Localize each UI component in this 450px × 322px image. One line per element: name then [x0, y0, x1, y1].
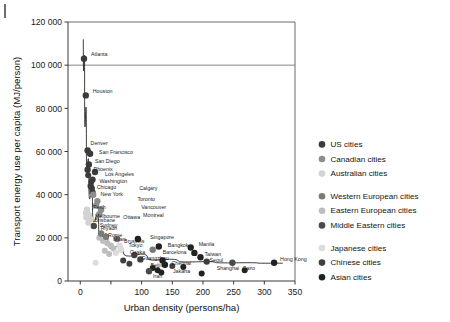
point-label-bangkok: Bangkok: [168, 242, 189, 248]
data-point-houston: [83, 92, 89, 98]
point-label-cairo: Cairo: [242, 265, 255, 271]
legend-item-canadian[interactable]: Canadian cities: [319, 155, 386, 164]
legend-item-australian[interactable]: Australian cities: [319, 169, 387, 178]
legend-label: Australian cities: [331, 169, 388, 178]
legend-item-western-european[interactable]: Western European cities: [319, 192, 419, 201]
scatter-chart: 0100150200250300350 020 00040 00060 0008…: [0, 0, 450, 322]
data-point: [120, 258, 126, 264]
point-label-san-diego: San Diego: [95, 158, 120, 164]
y-tick-label: 120 000: [31, 17, 62, 27]
legend-swatch-icon: [319, 156, 326, 163]
point-label-jakarta: Jakarta: [173, 268, 190, 274]
x-tick-label: 100: [134, 287, 149, 297]
x-tick-label: 350: [288, 287, 303, 297]
legend-swatch-icon: [319, 245, 326, 252]
x-tick-label: 0: [78, 287, 83, 297]
legend-swatch-icon: [319, 170, 326, 177]
point-label-new-york: New York: [101, 191, 124, 197]
legend-item-eastern-european[interactable]: Eastern European cities: [319, 206, 417, 215]
x-tick-label: 250: [226, 287, 241, 297]
point-label-calgary: Calgary: [139, 185, 158, 191]
point-label-chicago: Chicago: [97, 184, 116, 190]
data-point-seoul: [197, 254, 203, 260]
legend-swatch-icon: [319, 259, 326, 266]
point-label-los-angeles: Los Angeles: [105, 171, 134, 177]
point-label-hong-kong: Hong Kong: [280, 256, 307, 262]
y-tick-label: 40 000: [36, 190, 63, 200]
point-label-perth: Perth: [93, 204, 106, 210]
data-point-atlanta: [81, 56, 87, 62]
legend-swatch-icon: [319, 141, 326, 148]
x-tick-label: 150: [165, 287, 180, 297]
y-axis-ticks: 020 00040 00060 00080 000100 000120 000: [31, 17, 68, 286]
point-label-singapore: Singapore: [150, 234, 174, 240]
point-label-atlanta: Atlanta: [91, 51, 108, 57]
point-label-houston: Houston: [93, 88, 113, 94]
data-point-taiwan: [191, 250, 197, 256]
point-label-chennai: Chennai: [172, 260, 192, 266]
data-point-san-diego: [86, 161, 92, 167]
x-axis-ticks: 0100150200250300350: [78, 281, 303, 297]
data-point-manila: [188, 244, 194, 250]
data-point-osaka: [118, 247, 124, 253]
legend-label: Western European cities: [331, 192, 419, 201]
legend-swatch-icon: [319, 274, 326, 281]
x-axis-title: Urban density (persons/ha): [124, 302, 240, 313]
point-label-guangzhou: Guangzhou: [141, 255, 168, 261]
y-tick-label: 100 000: [31, 60, 62, 70]
legend-item-asian[interactable]: Asian cities: [319, 273, 372, 282]
point-label-montreal: Montreal: [143, 212, 164, 218]
point-label-toronto: Toronto: [137, 196, 155, 202]
point-label-manila: Manila: [199, 241, 215, 247]
y-tick-label: 20 000: [36, 233, 63, 243]
data-point: [199, 270, 205, 276]
legend-label: Asian cities: [331, 273, 372, 282]
data-point-riyadh: [91, 223, 97, 229]
data-point-bangkok: [156, 243, 162, 249]
point-label-ottawa: Ottawa: [123, 214, 140, 220]
legend-label: Japanese cities: [331, 244, 387, 253]
point-label-riyadh: Riyadh: [101, 225, 118, 231]
data-point: [93, 260, 99, 266]
point-label-iran: Iran: [153, 273, 162, 279]
legend-label: US cities: [331, 140, 363, 149]
legend-label: Middle Eastern cities: [331, 221, 406, 230]
data-point-barcelona: [150, 247, 156, 253]
point-label-seoul: Seoul: [210, 257, 224, 263]
data-point-washington: [89, 176, 95, 182]
legend-item-chinese[interactable]: Chinese cities: [319, 258, 381, 267]
data-point-calgary: [90, 192, 96, 198]
data-point: [126, 261, 132, 267]
legend-swatch-icon: [319, 208, 326, 215]
data-point-phoenix: [84, 167, 90, 173]
point-label-tokyo: Tokyo: [129, 242, 143, 248]
legend: US citiesCanadian citiesAustralian citie…: [319, 140, 419, 282]
data-point-iran: [146, 268, 152, 274]
data-point-sydney: [88, 216, 94, 222]
point-label-denver: Denver: [91, 140, 108, 146]
y-axis-title: Transport energy use per capita (MJ/pers…: [11, 57, 22, 246]
legend-label: Chinese cities: [331, 258, 381, 267]
legend-swatch-icon: [319, 222, 326, 229]
data-point-chicago: [88, 183, 94, 189]
data-point: [106, 251, 112, 257]
point-label-taiwan: Taiwan: [204, 251, 221, 257]
y-tick-label: 60 000: [36, 147, 63, 157]
legend-item-japanese[interactable]: Japanese cities: [319, 244, 387, 253]
y-tick-label: 80 000: [36, 104, 63, 114]
y-tick-label: 0: [57, 276, 62, 286]
x-tick-label: 200: [196, 287, 211, 297]
legend-swatch-icon: [319, 193, 326, 200]
point-label-san-francisco: San Francisco: [99, 149, 133, 155]
point-label-beijing: Beijing: [150, 262, 166, 268]
legend-label: Canadian cities: [331, 155, 386, 164]
data-point-san-francisco: [87, 151, 93, 157]
legend-item-us[interactable]: US cities: [319, 140, 363, 149]
point-label-vancouver: Vancouver: [141, 204, 166, 210]
x-tick-label: 300: [257, 287, 272, 297]
legend-label: Eastern European cities: [331, 206, 417, 215]
legend-item-middle-eastern[interactable]: Middle Eastern cities: [319, 221, 405, 230]
data-point-hong-kong: [271, 260, 277, 266]
point-label-shanghai: Shanghai: [217, 265, 239, 271]
